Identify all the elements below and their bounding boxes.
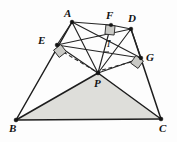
vertex-c <box>159 117 163 121</box>
geometry-figure: A F D E I G P B C <box>0 0 177 142</box>
vertex-a <box>70 20 74 24</box>
label-f: F <box>106 10 113 21</box>
vertex-f <box>109 23 113 27</box>
label-p: P <box>94 78 101 89</box>
segment-e-d <box>57 29 131 45</box>
label-e: E <box>38 35 45 46</box>
label-b: B <box>9 123 16 134</box>
vertex-e <box>55 43 59 47</box>
figure-canvas <box>0 0 177 142</box>
vertex-g <box>139 56 143 60</box>
vertex-p <box>96 71 100 75</box>
label-i: I <box>107 40 110 50</box>
label-g: G <box>146 52 154 63</box>
segment-a-e <box>57 22 72 45</box>
segment-b-c <box>16 119 161 120</box>
label-c: C <box>159 123 166 134</box>
label-d: D <box>128 13 136 24</box>
label-a: A <box>64 8 71 19</box>
vertex-d <box>129 27 133 31</box>
shaded-triangle-bpc <box>16 73 161 120</box>
